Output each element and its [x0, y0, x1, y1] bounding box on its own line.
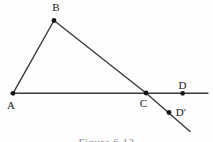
line-segment-AB: [13, 21, 54, 94]
points-layer: ABCDD′: [7, 1, 187, 118]
point-dot-D-prime: [167, 110, 172, 115]
geometry-diagram: ABCDD′: [0, 0, 213, 142]
point-label-D-prime: D′: [176, 106, 186, 118]
point-label-D: D: [179, 79, 187, 91]
point-dot-A: [11, 91, 16, 96]
point-dot-C: [144, 91, 149, 96]
point-label-B: B: [52, 1, 59, 13]
point-dot-D: [180, 91, 185, 96]
line-segment-BC: [54, 21, 146, 94]
point-label-A: A: [7, 99, 15, 111]
point-label-C: C: [140, 97, 147, 109]
point-dot-B: [52, 18, 57, 23]
figure-canvas: ABCDD′ Figure 6.12: [0, 0, 213, 142]
figure-caption: Figure 6.12: [0, 136, 213, 142]
